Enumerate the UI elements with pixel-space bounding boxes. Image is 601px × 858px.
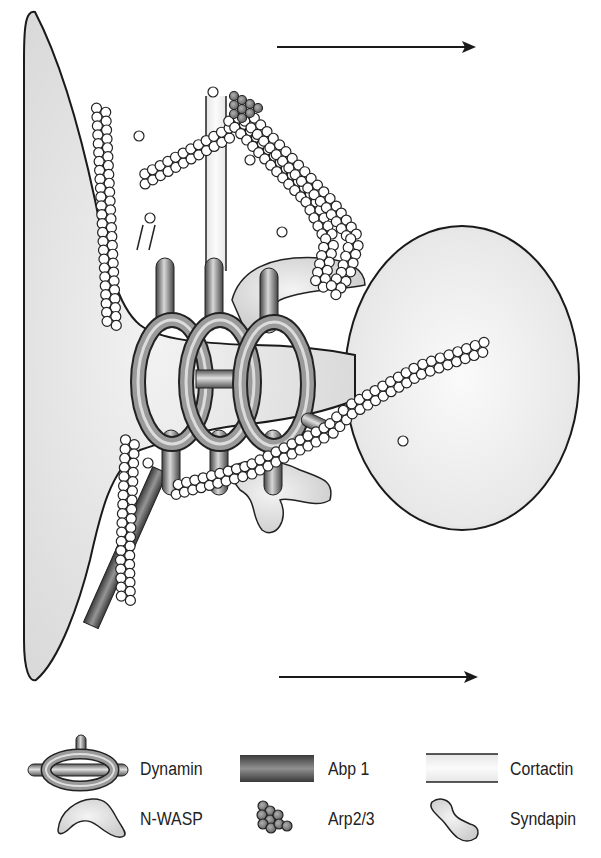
legend-label-nwasp: N-WASP (140, 809, 203, 830)
legend-label-abp1: Abp 1 (328, 759, 369, 780)
legend (28, 735, 498, 841)
vesicle (345, 226, 579, 530)
legend-label-syndapin: Syndapin (510, 809, 576, 830)
legend-nwasp-icon (58, 799, 125, 837)
legend-abp1-icon (240, 755, 314, 782)
legend-label-cortactin: Cortactin (510, 759, 573, 780)
legend-label-arp23: Arp2/3 (328, 809, 375, 830)
legend-dynamin-icon (28, 735, 128, 786)
legend-syndapin-icon (431, 799, 478, 841)
cortactin-rod (206, 96, 226, 271)
legend-arp23-icon (257, 801, 292, 833)
vesicle-fission-diagram (0, 0, 601, 858)
legend-cortactin-icon (426, 754, 498, 782)
cortactin-small (137, 225, 155, 250)
direction-arrow-top (277, 41, 476, 53)
legend-label-dynamin: Dynamin (140, 759, 203, 780)
direction-arrow-bottom (279, 671, 478, 683)
